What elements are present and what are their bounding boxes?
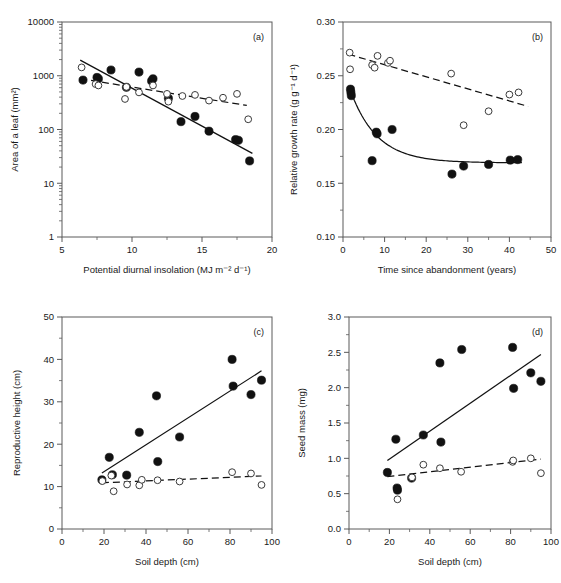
fit-curve-filled (350, 91, 521, 163)
data-point-filled (247, 390, 255, 398)
y-tick-label: 30 (43, 396, 54, 407)
data-point-open (192, 92, 199, 99)
y-tick-label: 40 (43, 354, 54, 365)
panel-b: 010203040500.100.150.200.250.30(b)Time s… (281, 0, 561, 292)
x-tick-label: 40 (504, 244, 515, 255)
data-point-filled (527, 369, 535, 377)
data-point-open (176, 478, 183, 485)
y-tick-label: 0.30 (317, 16, 336, 27)
data-point-filled (205, 127, 213, 135)
x-tick-label: 20 (384, 536, 395, 547)
data-point-open (164, 90, 171, 97)
x-tick-label: 100 (543, 536, 559, 547)
x-tick-label: 0 (346, 536, 351, 547)
data-point-open (527, 455, 534, 462)
y-axis-title: Reproductive height (cm) (11, 370, 22, 476)
data-point-open (420, 461, 427, 468)
plot-frame (349, 317, 551, 529)
panel-a: 5101520110100100010000(a)Potential diurn… (0, 0, 281, 292)
data-point-open (78, 64, 85, 71)
fit-line-open (80, 79, 247, 106)
data-point-filled (191, 112, 199, 120)
x-tick-label: 30 (463, 244, 474, 255)
data-point-filled (485, 160, 493, 168)
panel-c: 02040608010001020304050(c)Soil depth (cm… (0, 292, 281, 583)
data-point-open (95, 82, 102, 89)
y-tick-label: 0.25 (317, 70, 336, 81)
data-point-open (374, 52, 381, 59)
y-tick-label: 3.0 (328, 311, 341, 322)
data-point-filled (388, 125, 396, 133)
data-point-open (108, 472, 115, 479)
data-point-open (229, 469, 236, 476)
data-point-filled (154, 457, 162, 465)
data-point-filled (107, 66, 115, 74)
data-point-filled (392, 435, 400, 443)
data-point-filled (537, 377, 545, 385)
data-point-open (136, 89, 143, 96)
data-point-open (248, 470, 255, 477)
y-tick-label: 1.0 (328, 453, 341, 464)
panel-label: (a) (253, 32, 264, 42)
plot-d: 0204060801000.00.51.01.52.02.53.0(d)Soil… (281, 292, 561, 583)
data-point-open (347, 66, 354, 73)
data-point-open (220, 94, 227, 101)
data-point-filled (347, 92, 355, 100)
y-tick-label: 0.5 (328, 488, 341, 499)
plot-a: 5101520110100100010000(a)Potential diurn… (0, 0, 281, 292)
y-tick-label: 0.15 (317, 178, 336, 189)
data-point-filled (458, 345, 466, 353)
data-point-filled (257, 376, 265, 384)
x-tick-label: 40 (141, 536, 152, 547)
y-tick-label: 2.5 (328, 347, 341, 358)
data-point-open (506, 91, 513, 98)
data-point-filled (514, 156, 522, 164)
data-point-filled (460, 162, 468, 170)
data-point-filled (448, 170, 456, 178)
data-point-open (99, 478, 106, 485)
panel-label: (b) (532, 32, 543, 42)
x-axis-title: Time since abandonment (years) (378, 264, 517, 275)
data-point-filled (105, 453, 113, 461)
data-point-open (485, 108, 492, 115)
data-point-open (138, 476, 145, 483)
y-axis-title: Relative growth rate (g g⁻¹ d⁻¹) (288, 64, 299, 195)
x-tick-label: 50 (546, 244, 557, 255)
data-point-open (123, 84, 130, 91)
data-point-open (387, 57, 394, 64)
fit-line-open (348, 54, 528, 106)
fit-line-filled (387, 354, 541, 460)
data-point-filled (79, 76, 87, 84)
data-point-open (206, 97, 213, 104)
data-point-open (258, 482, 265, 489)
plot-b: 010203040500.100.150.200.250.30(b)Time s… (281, 0, 561, 292)
figure-container: 5101520110100100010000(a)Potential diurn… (0, 0, 561, 583)
y-axis-title: Area of a leaf (mm²) (9, 87, 20, 171)
x-tick-label: 80 (505, 536, 516, 547)
data-point-filled (123, 471, 131, 479)
data-point-filled (228, 355, 236, 363)
data-point-open (437, 465, 444, 472)
x-axis-title: Potential diurnal insolation (MJ m⁻² d⁻¹… (83, 264, 250, 275)
x-tick-label: 20 (99, 536, 110, 547)
data-point-filled (152, 392, 160, 400)
x-tick-label: 20 (267, 244, 278, 255)
y-tick-label: 2.0 (328, 382, 341, 393)
y-tick-label: 0.20 (317, 124, 336, 135)
panel-label: (c) (254, 327, 265, 337)
fit-line-filled (80, 60, 252, 153)
y-tick-label: 10000 (28, 16, 54, 27)
y-tick-label: 1.5 (328, 417, 341, 428)
x-tick-label: 40 (425, 536, 436, 547)
data-point-open (154, 477, 161, 484)
data-point-open (234, 90, 241, 97)
data-point-filled (234, 136, 242, 144)
data-point-open (179, 93, 186, 100)
y-tick-label: 1000 (33, 70, 54, 81)
data-point-open (460, 122, 467, 129)
data-point-filled (393, 486, 401, 494)
data-point-filled (229, 382, 237, 390)
x-tick-label: 100 (264, 536, 280, 547)
data-point-open (245, 116, 252, 123)
data-point-open (346, 49, 353, 56)
